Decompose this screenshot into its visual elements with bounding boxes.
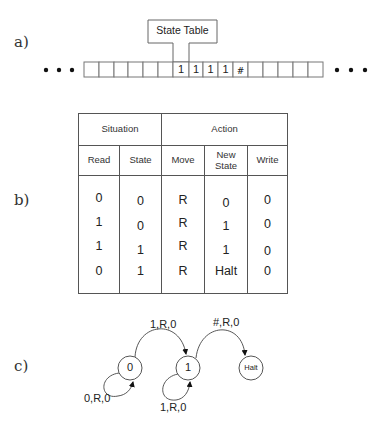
transition-0-to-1	[135, 329, 186, 357]
transition-label-1-self: 1,R,0	[160, 401, 186, 413]
transition-1-to-halt	[196, 330, 245, 358]
state-0-label: 0	[118, 361, 142, 373]
state-1-label: 1	[176, 361, 200, 373]
state-halt-label: Halt	[239, 363, 263, 372]
transition-label-1-to-halt: #,R,0	[213, 316, 239, 328]
transition-label-0-self: 0,R,0	[84, 392, 110, 404]
transition-label-0-to-1: 1,R,0	[150, 318, 176, 330]
